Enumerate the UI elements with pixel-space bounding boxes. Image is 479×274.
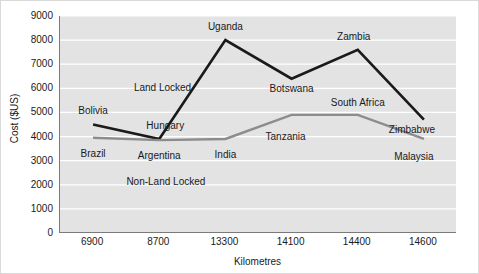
data-point-label: Hungary [146, 120, 184, 131]
group-annotation: Land Locked [134, 82, 191, 93]
y-axis-tick-label: 6000 [13, 83, 53, 93]
x-axis-tick-label: 14100 [256, 236, 326, 247]
y-axis-tick-label: 9000 [13, 11, 53, 21]
data-point-label: Tanzania [266, 131, 306, 142]
y-axis-tick-label: 0 [13, 228, 53, 238]
data-point-label: Zimbabwe [389, 124, 435, 135]
x-axis-tick-label: 14600 [388, 236, 458, 247]
data-point-label: Uganda [208, 21, 243, 32]
y-axis-tick-label: 2000 [13, 180, 53, 190]
data-point-label: South Africa [331, 97, 385, 108]
y-axis-tick-label: 4000 [13, 132, 53, 142]
group-annotation: Non-Land Locked [126, 176, 205, 187]
x-axis-tick-label: 13300 [189, 236, 259, 247]
x-axis-tick-label: 8700 [123, 236, 193, 247]
data-point-label: India [215, 149, 237, 160]
data-point-label: Argentina [138, 150, 181, 161]
x-axis-tick-labels: 6900870013300141001440014600 [59, 236, 456, 252]
chart-container: Cost ($US) 01000200030004000500060007000… [0, 0, 479, 274]
data-point-label: Zambia [337, 31, 370, 42]
data-point-label: Brazil [81, 148, 106, 159]
x-axis-tick-label: 14400 [322, 236, 392, 247]
y-axis-tick-label: 1000 [13, 204, 53, 214]
x-axis-tick-label: 6900 [57, 236, 127, 247]
data-point-label: Botswana [270, 83, 314, 94]
data-point-label: Malaysia [394, 151, 433, 162]
y-axis-tick-label: 7000 [13, 59, 53, 69]
y-axis-tick-label: 5000 [13, 107, 53, 117]
y-axis-tick-labels: 0100020003000400050006000700080009000 [9, 1, 53, 274]
x-axis-title: Kilometres [59, 256, 456, 267]
y-axis-tick-label: 8000 [13, 35, 53, 45]
y-axis-tick-label: 3000 [13, 156, 53, 166]
data-point-label: Bolivia [78, 105, 107, 116]
plot-area: BoliviaHungaryUgandaBotswanaZambiaZimbab… [59, 16, 456, 233]
